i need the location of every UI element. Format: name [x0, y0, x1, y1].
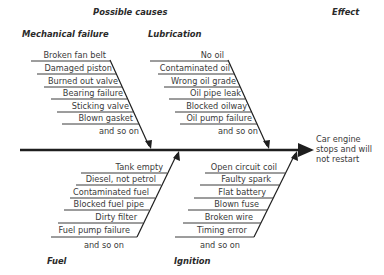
cause-item: Fuel pump failure: [59, 225, 130, 235]
category-title-ignition: Ignition: [174, 256, 211, 266]
cause-item: Faulty spark: [221, 174, 271, 184]
category-title-mechanical: Mechanical failure: [22, 29, 109, 39]
cause-item: Broken wire: [205, 212, 253, 222]
bone-ignition: Open circuit coil Faulty spark Flat batt…: [175, 151, 298, 250]
cause-item: Flat battery: [218, 187, 266, 197]
cause-item: and so on: [218, 126, 258, 136]
cause-item: Blown fuse: [214, 199, 259, 209]
cause-item: Burned out valve: [48, 76, 118, 86]
cause-item: Open circuit coil: [211, 162, 277, 172]
bone-mechanical: Broken fan belt Damaged piston Burned ou…: [31, 50, 152, 149]
cause-item: Blown gasket: [78, 113, 133, 123]
cause-item: Tank empty: [115, 162, 164, 172]
cause-item: No oil: [201, 50, 224, 60]
fishbone-diagram: Possible causes Effect Mechanical failur…: [0, 0, 384, 275]
svg-text:stops and will: stops and will: [316, 144, 372, 154]
category-title-lubrication: Lubrication: [148, 29, 202, 39]
cause-item: Wrong oil grade: [171, 76, 236, 86]
arrowhead-icon: [263, 140, 270, 149]
cause-item: Broken fan belt: [43, 50, 106, 60]
cause-item: Oil pump failure: [186, 113, 252, 123]
cause-item: Contaminated fuel: [73, 187, 149, 197]
cause-item: Oil pipe leak: [190, 88, 241, 98]
cause-item: and so on: [84, 240, 124, 250]
spine-arrowhead-icon: [298, 143, 314, 157]
cause-item: Timing error: [196, 225, 248, 235]
main-spine: [20, 143, 314, 157]
cause-item: and so on: [200, 240, 240, 250]
bone-lubrication: No oil Contaminated oil Wrong oil grade …: [150, 50, 270, 149]
svg-text:not restart: not restart: [316, 154, 360, 164]
cause-item: and so on: [99, 126, 139, 136]
category-title-fuel: Fuel: [47, 256, 67, 266]
bone-fuel: Tank empty Diesel, not petrol Contaminat…: [51, 151, 180, 250]
cause-item: Diesel, not petrol: [86, 174, 156, 184]
cause-item: Damaged piston: [45, 63, 113, 73]
svg-text:Car engine: Car engine: [316, 134, 361, 144]
cause-item: Bearing failure: [63, 88, 123, 98]
cause-item: Contaminated oil: [160, 63, 230, 73]
effect-text: Car engine stops and will not restart: [316, 134, 372, 164]
arrowhead-icon: [145, 140, 152, 149]
effect-heading: Effect: [332, 7, 360, 17]
cause-item: Blocked oilway: [186, 101, 247, 111]
cause-item: Sticking valve: [72, 101, 129, 111]
cause-item: Dirty filter: [95, 212, 137, 222]
cause-item: Blocked fuel pipe: [74, 199, 144, 209]
causes-heading: Possible causes: [93, 7, 167, 17]
